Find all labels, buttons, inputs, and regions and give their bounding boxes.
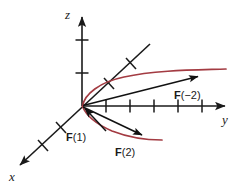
- vector-function-figure: z y x: [0, 0, 239, 185]
- z-axis: z: [64, 7, 89, 106]
- vector-f-minus-2-label: F(−2): [174, 89, 201, 101]
- vector-f-1-arrow: [85, 109, 106, 132]
- x-axis-tick: [126, 58, 136, 69]
- z-axis-label: z: [64, 7, 70, 22]
- x-axis-tick: [38, 140, 48, 151]
- x-axis-label: x: [8, 169, 15, 184]
- vector-f-1-label: F(1): [66, 131, 86, 143]
- y-axis: y: [82, 100, 228, 128]
- y-axis-label: y: [220, 112, 228, 127]
- x-axis: x: [8, 44, 150, 184]
- curve-lower-branch: [83, 107, 163, 141]
- coordinate-diagram: z y x: [0, 0, 239, 185]
- vector-f-2-label: F(2): [115, 146, 135, 158]
- vector-f-2: F(2): [83, 107, 142, 158]
